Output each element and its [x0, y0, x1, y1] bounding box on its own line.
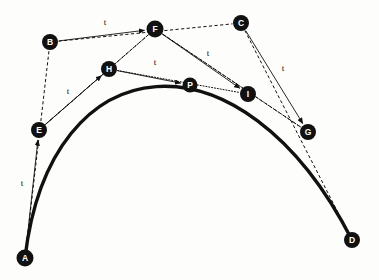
- point-h[interactable]: H: [101, 61, 117, 77]
- point-a-dot[interactable]: [17, 250, 34, 267]
- t-label-f-i: t: [207, 48, 210, 58]
- point-h-dot[interactable]: [101, 61, 117, 77]
- point-b-dot[interactable]: [42, 34, 58, 50]
- bezier-canvas: tttttt ABCDEFGHIP: [0, 0, 379, 280]
- control-polygon-dashed-layer: [26, 24, 348, 249]
- t-arrow-e-h: [46, 76, 102, 125]
- point-g[interactable]: G: [300, 124, 316, 140]
- t-label-c-g: t: [282, 63, 285, 73]
- hull-b-c: [58, 24, 232, 41]
- t-label-a-e: t: [21, 178, 24, 188]
- bezier-diagram: tttttt ABCDEFGHIP: [0, 0, 379, 280]
- bezier-curve-layer: [25, 86, 352, 258]
- t-label-h-p: t: [154, 57, 157, 67]
- point-c[interactable]: C: [233, 15, 249, 31]
- point-d-dot[interactable]: [344, 232, 360, 248]
- point-i-dot[interactable]: [240, 86, 256, 102]
- t-arrow-f-i: [163, 34, 240, 88]
- point-f-dot[interactable]: [147, 21, 164, 38]
- point-i[interactable]: I: [240, 86, 256, 102]
- point-a[interactable]: A: [17, 250, 34, 267]
- second-level-dotted-layer: [45, 34, 301, 127]
- point-p-dot[interactable]: [183, 78, 198, 93]
- t-label-e-h: t: [67, 86, 70, 96]
- point-d[interactable]: D: [344, 232, 360, 248]
- t-arrow-b-f: [59, 30, 145, 41]
- point-f[interactable]: F: [147, 21, 164, 38]
- t-parameter-labels-layer: tttttt: [21, 17, 285, 188]
- point-e-dot[interactable]: [31, 122, 47, 138]
- t-arrow-h-p: [118, 71, 181, 83]
- point-b[interactable]: B: [42, 34, 58, 50]
- t-arrow-a-e: [26, 140, 38, 249]
- point-g-dot[interactable]: [300, 124, 316, 140]
- point-p[interactable]: P: [183, 78, 198, 93]
- hull-c-d: [245, 31, 348, 233]
- t-label-b-f: t: [104, 17, 107, 27]
- cubic-bezier-curve: [25, 86, 352, 258]
- point-c-dot[interactable]: [233, 15, 249, 31]
- point-e[interactable]: E: [31, 122, 47, 138]
